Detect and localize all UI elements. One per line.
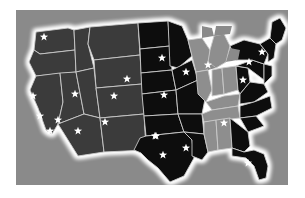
state-wyoming[interactable]: [94, 55, 142, 88]
us-map-svg: Pacific NorthwestNorthern CaliforniaCent…: [16, 10, 288, 185]
state-michigan[interactable]: [208, 34, 230, 68]
state-florida[interactable]: [232, 148, 268, 180]
state-washington[interactable]: [34, 28, 75, 54]
states-group: [29, 18, 286, 182]
state-south-dakota[interactable]: [140, 46, 172, 73]
state-maine[interactable]: [270, 18, 286, 44]
state-montana[interactable]: [88, 23, 140, 60]
state-north-dakota[interactable]: [138, 21, 170, 49]
map-figure: Pacific NorthwestNorthern CaliforniaCent…: [0, 0, 305, 198]
map-glow-group: [29, 18, 286, 182]
state-mid-atlantic[interactable]: [264, 64, 272, 84]
state-minnesota[interactable]: [168, 21, 192, 68]
state-ohio[interactable]: [222, 66, 238, 94]
state-kansas[interactable]: [142, 90, 178, 116]
state-colorado[interactable]: [96, 84, 144, 118]
map-panel: Pacific NorthwestNorthern CaliforniaCent…: [16, 10, 288, 185]
